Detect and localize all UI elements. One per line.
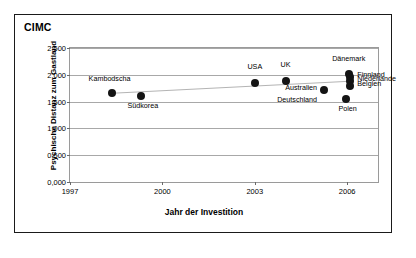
- y-tick-label: 0,000: [47, 178, 66, 187]
- data-point-marker[interactable]: [251, 79, 259, 87]
- data-point-label: Kambodscha: [89, 74, 131, 83]
- x-axis-title: Jahr der Investition: [15, 207, 393, 217]
- y-tick-label: 2,000: [47, 70, 66, 79]
- y-tick-label: 0,500: [47, 151, 66, 160]
- data-point-marker[interactable]: [346, 82, 354, 90]
- chart-figure: CIMC Psychische Distanz zum Gastland 0,0…: [0, 0, 416, 258]
- y-tick-mark: [67, 128, 70, 129]
- data-point-label: Südkorea: [127, 101, 158, 110]
- data-point-label: Deutschland: [277, 95, 317, 104]
- data-point-label: Polen: [338, 104, 356, 113]
- y-tick-mark: [67, 75, 70, 76]
- chart-title: CIMC: [24, 21, 52, 33]
- y-tick-mark: [67, 155, 70, 156]
- data-point-label: USA: [247, 62, 262, 71]
- gridline-y: [70, 48, 378, 49]
- x-tick-mark: [162, 182, 163, 185]
- x-tick-mark: [255, 182, 256, 185]
- plot-area: 0,0000,5001,0001,5002,0002,5001997200020…: [69, 47, 379, 183]
- y-tick-mark: [67, 48, 70, 49]
- data-point-marker[interactable]: [342, 95, 350, 103]
- gridline-y: [70, 128, 378, 129]
- x-tick-mark: [70, 182, 71, 185]
- x-tick-mark: [347, 182, 348, 185]
- x-tick-label: 1997: [62, 187, 79, 196]
- chart-frame: CIMC Psychische Distanz zum Gastland 0,0…: [14, 14, 392, 233]
- data-point-marker[interactable]: [108, 89, 116, 97]
- trend-line: [70, 48, 378, 182]
- data-point-label: Dänemark: [332, 54, 365, 63]
- data-point-marker[interactable]: [137, 92, 145, 100]
- x-tick-label: 2006: [339, 187, 356, 196]
- x-tick-label: 2003: [246, 187, 263, 196]
- y-tick-label: 2,500: [47, 44, 66, 53]
- gridline-y: [70, 155, 378, 156]
- data-point-label: Belgien: [357, 79, 381, 88]
- y-tick-label: 1,500: [47, 97, 66, 106]
- y-tick-mark: [67, 102, 70, 103]
- x-tick-label: 2000: [154, 187, 171, 196]
- gridline-y: [70, 102, 378, 103]
- data-point-marker[interactable]: [320, 86, 328, 94]
- data-point-label: UK: [281, 60, 291, 69]
- y-tick-label: 1,000: [47, 124, 66, 133]
- data-point-label: Australien: [285, 83, 317, 92]
